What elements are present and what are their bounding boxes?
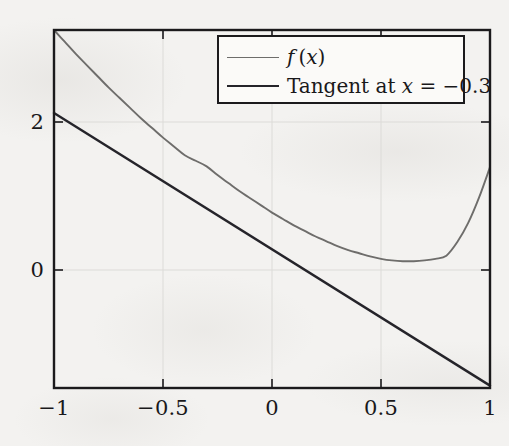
x-tick-label: −1 [38, 396, 69, 420]
figure-container: −1 −0.5 0 0.5 1 2 0 f (x) Tangent at x =… [0, 0, 509, 446]
legend-label: f (x) [287, 45, 325, 69]
legend-swatch-icon [227, 57, 279, 58]
legend-entry-tangent: Tangent at x = −0.3 [227, 73, 491, 99]
legend-swatch-icon [227, 85, 279, 87]
legend-label: Tangent at x = −0.3 [287, 74, 491, 98]
legend: f (x) Tangent at x = −0.3 [217, 35, 465, 104]
legend-entry-f-of-x: f (x) [227, 44, 325, 70]
x-tick-label: 0.5 [364, 396, 398, 420]
y-tick-label: 0 [22, 258, 44, 282]
x-tick-label: −0.5 [137, 396, 189, 420]
x-tick-label: 1 [483, 396, 497, 420]
y-tick-label: 2 [22, 110, 44, 134]
x-tick-label: 0 [265, 396, 279, 420]
